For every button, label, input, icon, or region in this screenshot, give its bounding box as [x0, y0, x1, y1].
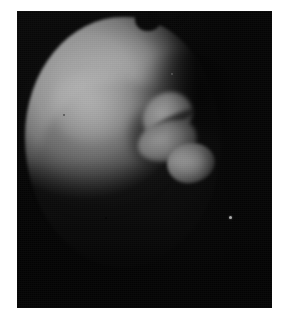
- bright-speck-artefact: [229, 216, 232, 219]
- page-root: [0, 0, 285, 326]
- photo-plate: [17, 11, 272, 308]
- dark-speck-upper-right: [171, 73, 173, 75]
- dark-speck-upper-left: [63, 114, 65, 116]
- lower-shadow-falloff: [17, 161, 272, 308]
- dark-speck-lower: [105, 217, 107, 219]
